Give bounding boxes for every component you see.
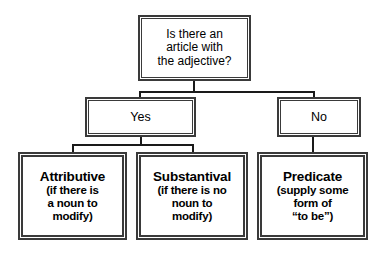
node-predicate[interactable]: Predicate (supply some form of “to be”) [257,152,368,240]
edge-question-crossbar [139,91,315,93]
node-question-line-3: the adjective? [157,55,231,68]
node-predicate-sub-3: “to be”) [292,210,333,223]
node-question-line-2: article with [166,41,223,54]
node-no-label: No [311,110,327,124]
diagram-canvas: Is there an article with the adjective? … [0,0,385,254]
node-attributive-title: Attributive [40,169,105,184]
node-substantival-sub-1: (if there is no [157,184,226,197]
node-yes-label: Yes [130,110,150,124]
node-no[interactable]: No [277,97,361,137]
node-predicate-inner: Predicate (supply some form of “to be”) [260,155,365,237]
node-predicate-title: Predicate [283,169,342,184]
node-attributive[interactable]: Attributive (if there is a noun to modif… [18,152,127,240]
node-substantival-inner: Substantival (if there is no noun to mod… [139,155,245,237]
node-substantival-title: Substantival [153,169,231,184]
node-no-inner: No [280,100,358,134]
node-attributive-sub-1: (if there is [46,184,99,197]
node-question[interactable]: Is there an article with the adjective? [138,15,251,81]
node-substantival-sub-3: modify) [172,210,212,223]
node-attributive-sub-3: modify) [52,210,92,223]
node-yes-inner: Yes [88,100,193,134]
node-substantival-sub-2: noun to [172,197,213,210]
node-substantival[interactable]: Substantival (if there is no noun to mod… [136,152,248,240]
node-predicate-sub-2: form of [293,197,331,210]
node-question-inner: Is there an article with the adjective? [141,18,248,78]
edge-yes-crossbar [72,144,194,146]
node-yes[interactable]: Yes [85,97,196,137]
node-attributive-inner: Attributive (if there is a noun to modif… [21,155,124,237]
node-question-line-1: Is there an [166,28,223,41]
node-attributive-sub-2: a noun to [48,197,98,210]
node-predicate-sub-1: (supply some [277,184,349,197]
